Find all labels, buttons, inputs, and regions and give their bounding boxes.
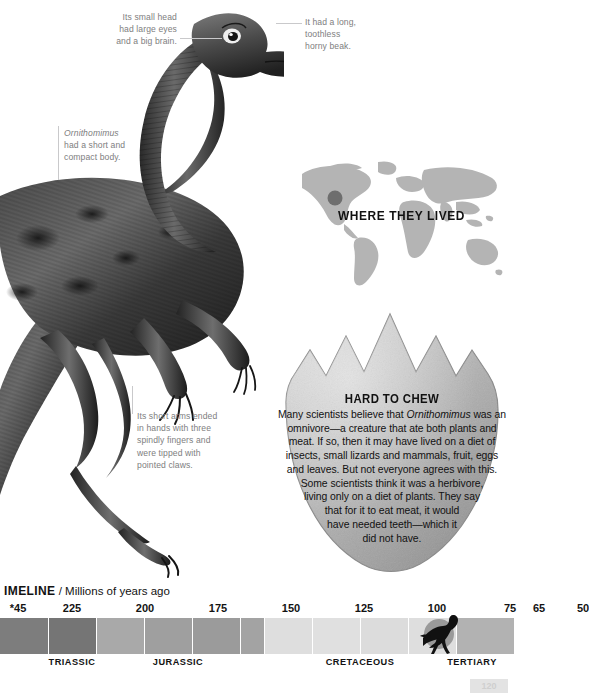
timeline-tick-label: 50 <box>577 602 589 614</box>
timeline-segment <box>192 618 240 654</box>
egg-body-line: Many scientists believe that Ornithomimu… <box>276 408 508 422</box>
timeline-tick-label: 200 <box>136 602 154 614</box>
map-marker-dot <box>328 191 343 206</box>
egg-body-line: insects, small lizards and mammals, frui… <box>276 449 508 463</box>
timeline-divider <box>96 618 97 654</box>
leader-line-body <box>58 126 59 180</box>
timeline-period-label: JURASSIC <box>153 657 203 667</box>
timeline-divider <box>240 618 241 654</box>
dino-artwork <box>0 13 284 577</box>
egg-body-line: have needed teeth—which it <box>276 518 508 532</box>
egg-body-line: omnivore—a creature that ate both plants… <box>276 422 508 436</box>
egg-body-line: and leaves. But not everyone agrees with… <box>276 463 508 477</box>
timeline-tick-label: 175 <box>209 602 227 614</box>
egg-panel-text: HARD TO CHEW Many scientists believe tha… <box>276 392 508 545</box>
timeline-heading-bold: IMELINE <box>4 584 55 598</box>
species-name-italic: Ornithomimus <box>406 409 470 420</box>
timeline-segment <box>96 618 144 654</box>
egg-panel-title: HARD TO CHEW <box>282 392 502 406</box>
timeline-segment <box>0 618 48 654</box>
world-map <box>300 158 506 288</box>
ornithomimus-illustration <box>0 0 284 590</box>
leader-line-beak <box>276 23 302 24</box>
timeline-segment <box>240 618 264 654</box>
callout-body-rest: had a short and compact body. <box>64 140 125 162</box>
timeline-tick-label: 65 <box>533 602 545 614</box>
timeline-divider <box>408 618 409 654</box>
timeline-tick-label: 150 <box>282 602 300 614</box>
leader-line-head <box>180 38 222 39</box>
page-number: 120 <box>470 679 508 693</box>
timeline-period-label: CRETACEOUS <box>326 657 395 667</box>
map-title: WHERE THEY LIVED <box>338 208 465 223</box>
leader-line-arms <box>132 386 133 414</box>
timeline-heading-rest: / Millions of years ago <box>55 585 169 597</box>
timeline-tick-label: 75 <box>504 602 516 614</box>
timeline-divider <box>360 618 361 654</box>
callout-beak: It had a long, toothless horny beak. <box>305 16 415 53</box>
egg-panel-body: Many scientists believe that Ornithomimu… <box>276 408 508 545</box>
egg-body-line: did not have. <box>276 532 508 546</box>
timeline-divider <box>48 618 49 654</box>
timeline-divider <box>144 618 145 654</box>
timeline-segment <box>360 618 408 654</box>
callout-arms: Its short arms ended in hands with three… <box>137 410 277 471</box>
geologic-timeline: IMELINE / Millions of years ago *4522520… <box>0 584 514 679</box>
species-name-italic: Ornithomimus <box>64 128 119 138</box>
egg-body-line: meat. If so, then it may have lived on a… <box>276 435 508 449</box>
timeline-segment <box>48 618 96 654</box>
timeline-tick-label: 125 <box>355 602 373 614</box>
callout-body: Ornithomimus had a short and compact bod… <box>64 127 174 164</box>
callout-head: Its small head had large eyes and a big … <box>57 11 177 48</box>
egg-body-line: that for it to eat meat, it would <box>276 504 508 518</box>
timeline-dinosaur-marker <box>415 612 465 660</box>
timeline-period-label: TRIASSIC <box>49 657 96 667</box>
timeline-divider <box>192 618 193 654</box>
egg-body-line: living only on a diet of plants. They sa… <box>276 490 508 504</box>
timeline-segment <box>264 618 312 654</box>
timeline-segment <box>144 618 192 654</box>
timeline-segment <box>312 618 360 654</box>
timeline-heading: IMELINE / Millions of years ago <box>4 584 170 598</box>
timeline-tick-label: *45 <box>10 602 27 614</box>
egg-body-line: Some scientists think it was a herbivore… <box>276 477 508 491</box>
map-landmasses <box>302 161 502 285</box>
timeline-divider <box>264 618 265 654</box>
timeline-tick-label: 225 <box>63 602 81 614</box>
timeline-divider <box>312 618 313 654</box>
